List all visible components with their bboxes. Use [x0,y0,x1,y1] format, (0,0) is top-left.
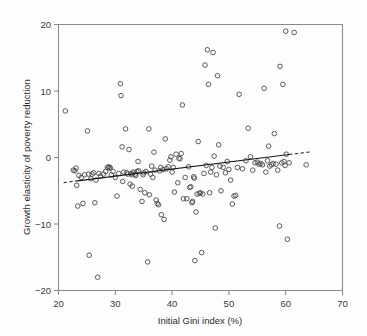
y-tick-label: 10 [40,86,51,97]
data-point [213,226,218,231]
data-point [272,131,277,136]
data-point [227,167,232,172]
data-point [120,145,125,150]
data-point [246,126,251,131]
data-point [235,165,240,170]
data-point [278,64,283,69]
x-tick-label: 70 [337,298,348,309]
x-tick-label: 30 [110,298,121,309]
data-point [203,63,208,68]
data-point [206,82,211,87]
data-point [170,170,175,175]
data-point [183,175,188,180]
data-point [193,258,198,263]
data-point [136,159,141,164]
data-point [264,170,269,175]
data-point [175,180,180,185]
x-tick-label: 50 [224,298,235,309]
data-point [119,93,124,98]
data-point [208,170,213,175]
y-axis-tick-labels: −20−1001020 [35,19,51,296]
data-point [147,127,152,132]
data-point [281,82,286,87]
data-point [215,73,220,78]
data-point [140,199,145,204]
data-point [214,172,219,177]
data-point [152,150,157,155]
x-tick-label: 40 [167,298,178,309]
data-point [74,183,79,188]
data-point [185,196,190,201]
data-point [199,250,204,255]
data-point [250,168,255,173]
data-point [205,47,210,52]
data-point [138,187,143,192]
y-tick-label: −10 [35,219,51,230]
data-point [211,50,216,55]
y-axis-title: Growth elasticity of poverty reduction [21,79,32,235]
x-axis-tick-labels: 203040506070 [53,298,348,309]
data-point [179,151,184,156]
scatter-plot: 203040506070 −20−1001020 Initial Gini in… [0,0,367,336]
data-point [265,159,270,164]
data-point [228,178,233,183]
data-point [194,210,199,215]
data-point [274,162,279,167]
data-point [180,103,185,108]
data-point [143,190,148,195]
data-point [172,190,177,195]
data-point [93,200,98,205]
data-point [159,212,164,217]
x-axis-title: Initial Gini index (%) [158,315,242,326]
data-point [285,237,290,242]
data-point [81,201,86,206]
data-point [262,86,267,91]
data-point [76,204,81,209]
data-point [237,92,242,97]
data-point [95,275,100,280]
data-point [87,253,92,258]
data-point [283,29,288,34]
data-point [147,192,152,197]
data-point [196,139,201,144]
data-point [275,168,280,173]
data-point [216,143,221,148]
x-tick-label: 20 [53,298,64,309]
data-point [123,127,128,132]
data-point [118,81,123,86]
x-axis-ticks [59,291,343,296]
y-tick-label: −20 [35,285,51,296]
data-point [120,179,125,184]
data-point [212,154,217,159]
data-point [287,161,292,166]
data-point [292,30,297,35]
trend-line [64,152,311,183]
data-point [85,129,90,134]
x-tick-label: 60 [280,298,291,309]
data-point [219,188,224,193]
data-point [277,224,282,229]
data-point [156,202,161,207]
data-point [149,164,154,169]
y-axis-ticks [54,25,59,291]
chart-figure: 203040506070 −20−1001020 Initial Gini in… [0,0,367,336]
data-point [248,155,253,160]
data-point [266,144,271,149]
y-tick-label: 0 [46,152,51,163]
data-point [202,171,207,176]
data-point [127,147,132,152]
data-point [210,165,215,170]
data-point [162,217,167,222]
data-point [145,260,150,265]
data-point [115,194,120,199]
data-point [207,190,212,195]
data-point [240,167,245,172]
y-tick-label: 20 [40,19,51,30]
data-point [63,109,68,114]
data-point [304,163,309,168]
data-point [230,202,235,207]
data-point [150,175,155,180]
scatter-points [63,29,308,280]
data-point [163,137,168,142]
